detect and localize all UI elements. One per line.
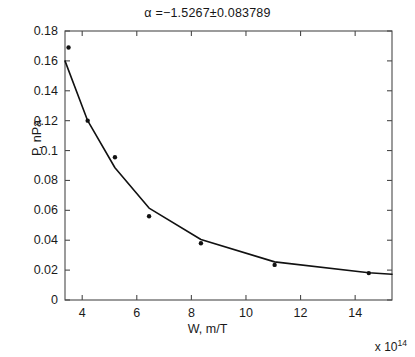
x-axis-exponent: x 1014 xyxy=(375,340,407,354)
y-tick-label: 0.16 xyxy=(8,54,58,68)
y-tick-label: 0.04 xyxy=(8,233,58,247)
y-axis-label: P, nPa xyxy=(30,103,44,173)
data-point-marker xyxy=(66,45,70,49)
y-tick-label: 0 xyxy=(8,293,58,307)
x-tick-label: 12 xyxy=(294,306,308,320)
x-tick-label: 6 xyxy=(133,306,140,320)
x-tick-label: 10 xyxy=(239,306,253,320)
x-tick-label: 8 xyxy=(188,306,195,320)
data-point-marker xyxy=(367,271,371,275)
data-point-marker xyxy=(113,155,117,159)
x-exponent-prefix: x 10 xyxy=(375,340,398,354)
data-point-marker xyxy=(199,241,203,245)
y-tick-label: 0.02 xyxy=(8,263,58,277)
figure-container: α =−1.5267±0.083789 00.020.040.060.080.1… xyxy=(0,0,415,357)
data-point-marker xyxy=(272,263,276,267)
x-tick-label: 14 xyxy=(348,306,362,320)
y-tick-label: 0.06 xyxy=(8,203,58,217)
y-tick-label: 0.18 xyxy=(8,24,58,38)
y-tick-label: 0.08 xyxy=(8,173,58,187)
x-exponent-power: 14 xyxy=(398,338,407,348)
y-tick-label: 0.14 xyxy=(8,84,58,98)
plot-axes-svg xyxy=(0,0,415,357)
data-point-marker xyxy=(147,214,151,218)
x-tick-label: 4 xyxy=(79,306,86,320)
data-point-marker xyxy=(85,118,89,122)
x-axis-label: W, m/T xyxy=(0,322,415,336)
